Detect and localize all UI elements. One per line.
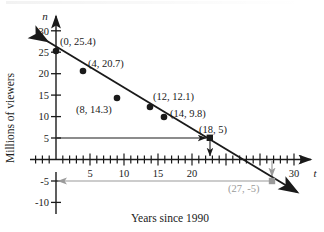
data-point-14 [161,114,168,121]
predicted-point-27 [269,178,275,184]
y-tick-neg5: -5 [40,176,49,187]
y-tick-10: 10 [39,111,50,122]
annotation-p27: (27, -5) [228,183,260,195]
figure-canvas: 30 25 20 15 10 5 -5 -10 5 10 15 20 30 n … [0,0,324,232]
x-tick-5: 5 [87,168,92,179]
data-point-0 [53,48,60,55]
annotation-p12: (12, 12.1) [153,91,195,103]
y-tick-5: 5 [44,133,49,144]
annotation-p4: (4, 20.7) [88,58,124,70]
point-annotations: (0, 25.4) (4, 20.7) (8, 14.3) (12, 12.1)… [60,36,227,136]
data-point-4 [80,68,87,75]
scatter-plot-svg: 30 25 20 15 10 5 -5 -10 5 10 15 20 30 n … [0,0,324,232]
data-point-12 [147,104,154,111]
y-tick-20: 20 [39,68,50,79]
x-axis-symbol: t [313,167,317,179]
x-tick-30: 30 [289,168,300,179]
y-axis-caption: Millions of viewers [4,72,16,163]
data-point-8 [114,95,121,102]
x-tick-20: 20 [187,168,198,179]
predicted-point-18 [207,135,213,141]
y-axis-symbol: n [42,10,48,22]
y-tick-neg10: -10 [35,197,49,208]
data-points-group [53,48,275,185]
x-tick-15: 15 [153,168,164,179]
black-guide-group [57,138,210,156]
annotation-p0: (0, 25.4) [60,36,96,48]
annotation-p18: (18, 5) [199,124,227,136]
x-axis-caption: Years since 1990 [131,212,209,224]
y-tick-15: 15 [39,90,50,101]
annotation-p14: (14, 9.8) [170,108,206,120]
y-tick-25: 25 [39,47,50,58]
annotation-p8: (8, 14.3) [76,104,112,116]
y-tick-30: 30 [39,26,50,37]
y-tick-labels: 30 25 20 15 10 5 -5 -10 [35,26,49,209]
x-tick-10: 10 [119,168,130,179]
top-edge-artifact [6,1,306,4]
